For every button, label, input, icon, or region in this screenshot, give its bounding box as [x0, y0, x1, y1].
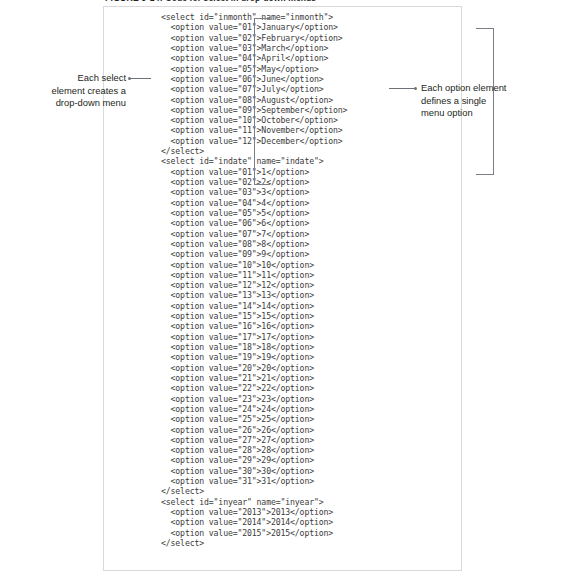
figure-number: FIGURE 9-14: — [105, 0, 163, 3]
annotation-right: Each option element defines a single men… — [421, 82, 568, 120]
leader-dot-right — [414, 87, 417, 90]
code-listing: <select id="inmonth" name="inmonth"> <op… — [161, 12, 347, 548]
annotation-left-line2: element creates a — [0, 85, 126, 98]
leader-line-right — [389, 88, 415, 89]
leader-line-left — [131, 78, 151, 79]
figure-caption: FIGURE 9-14: Code for select in drop-dow… — [105, 0, 316, 3]
leader-dot-left — [128, 77, 131, 80]
annotation-right-line3: menu option — [421, 107, 568, 120]
figure-title: Code for select in drop-down menus — [165, 0, 316, 3]
annotation-left-line1: Each select — [0, 72, 126, 85]
annotation-left: Each select element creates a drop-down … — [0, 72, 126, 110]
annotation-right-line2: defines a single — [421, 95, 568, 108]
code-panel: <select id="inmonth" name="inmonth"> <op… — [103, 6, 462, 571]
annotation-left-line3: drop-down menu — [0, 97, 126, 110]
annotation-right-line1: Each option element — [421, 82, 568, 95]
